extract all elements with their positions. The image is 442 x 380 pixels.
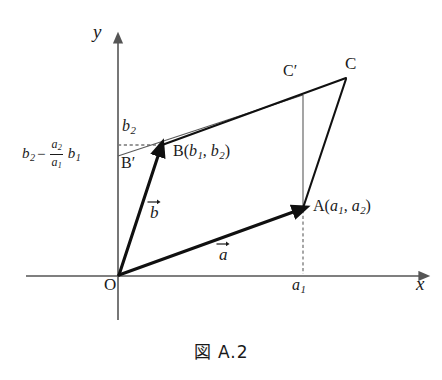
expr-minus-sign: − <box>37 147 45 162</box>
point-b-coord2: b <box>211 142 219 159</box>
expr-frac-denominator: a1 <box>50 156 62 171</box>
point-label-c-prime: C′ <box>283 63 297 79</box>
vector-parallelogram-figure: y x O a1 b2 b2 − a2 a1 b1 B′ B(b1, b2) A… <box>0 0 442 380</box>
expr-lead-var: b <box>22 145 30 161</box>
guide-lines-group <box>118 145 303 274</box>
point-label-b: B(b1, b2) <box>173 143 230 161</box>
point-a-coord2: a <box>352 197 360 214</box>
y-intercept-expression-label: b2 − a2 a1 b1 <box>22 138 81 171</box>
figure-caption: 図 A.2 <box>0 338 442 363</box>
expression-lead-term: b2 <box>22 146 35 163</box>
tick-a1-var: a <box>292 276 300 293</box>
vector-a-arrow-accent-icon <box>219 240 228 246</box>
edge-b-to-c <box>162 78 346 145</box>
expr-frac-den-sub: 1 <box>57 161 61 170</box>
point-label-c: C <box>345 55 356 72</box>
point-label-a: A(a1, a2) <box>313 198 371 216</box>
point-b-comma: , <box>203 142 211 159</box>
point-b-coord1: b <box>189 142 197 159</box>
point-a-comma: , <box>344 197 352 214</box>
vector-b-glyph: b <box>150 203 159 222</box>
axes-group <box>26 42 420 320</box>
tick-b2-var: b <box>122 117 130 134</box>
edge-a-to-c <box>303 79 346 208</box>
y-tick-label-b2: b2 <box>122 118 136 136</box>
point-b-paren-close: ) <box>225 142 230 159</box>
vector-a-arrow <box>119 211 296 275</box>
tick-b2-subscript: 2 <box>130 124 136 136</box>
expr-frac-num-sub: 2 <box>57 143 61 152</box>
expr-frac-numerator: a2 <box>50 138 62 153</box>
point-label-b-prime: B′ <box>121 155 135 171</box>
point-a-paren-close: ) <box>366 197 371 214</box>
x-tick-label-a1: a1 <box>292 277 306 295</box>
point-a-name: A <box>313 197 325 214</box>
vectors-group <box>119 153 296 275</box>
x-axis-label: x <box>416 274 424 293</box>
vector-b-label: b <box>150 198 159 223</box>
point-b-name: B <box>173 142 184 159</box>
tick-a1-subscript: 1 <box>300 283 306 295</box>
vector-b-arrow-accent-icon <box>150 198 159 204</box>
vector-a-glyph: a <box>219 245 228 264</box>
expression-trailing-term: b1 <box>68 146 81 163</box>
expr-lead-sub: 2 <box>30 152 36 163</box>
point-a-coord1: a <box>330 197 338 214</box>
origin-label: O <box>104 276 116 293</box>
figure-canvas <box>0 0 442 380</box>
expr-fraction: a2 a1 <box>50 138 62 171</box>
y-axis-label: y <box>93 22 101 41</box>
vector-a-label: a <box>219 240 228 265</box>
expr-trail-sub: 1 <box>75 152 81 163</box>
